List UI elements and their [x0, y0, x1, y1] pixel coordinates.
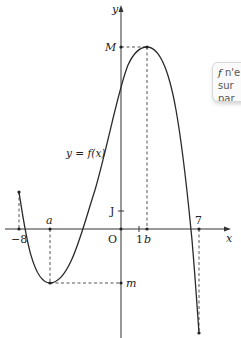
point-a	[48, 227, 51, 230]
x-unit-label: 1	[136, 233, 143, 246]
y-unit-label: J	[109, 205, 114, 218]
callout-line-1: f n'e	[218, 66, 241, 79]
x-tick-b: b	[144, 233, 151, 246]
callout-line-2: sur	[218, 79, 241, 92]
point-origin	[119, 227, 122, 230]
x-tick-a: a	[46, 214, 53, 227]
y-tick-M: M	[104, 41, 117, 54]
x-axis-arrow-icon	[224, 227, 231, 232]
point-M	[119, 45, 122, 48]
function-graph: y x O 1 J −8 a b 7 M m y = f(x)	[0, 0, 241, 338]
function-curve	[19, 47, 199, 333]
callout-line-3: par	[218, 92, 241, 102]
origin-label: O	[108, 233, 117, 246]
x-tick-minus8: −8	[11, 233, 27, 246]
curve-label: y = f(x)	[65, 147, 105, 159]
y-axis-arrow-icon	[119, 5, 124, 12]
point-m	[119, 281, 122, 284]
key-points	[17, 45, 200, 334]
x-axis-label: x	[226, 232, 233, 245]
callout-box: f n'e sur par	[212, 62, 241, 102]
point-start	[17, 190, 20, 193]
point-end	[197, 331, 200, 334]
point-minus8	[17, 227, 20, 230]
point-max	[145, 45, 148, 48]
point-7	[197, 227, 200, 230]
point-b	[145, 227, 148, 230]
y-tick-m: m	[126, 277, 136, 290]
y-axis-label: y	[111, 3, 119, 16]
point-min	[48, 281, 51, 284]
x-tick-7: 7	[195, 214, 202, 227]
